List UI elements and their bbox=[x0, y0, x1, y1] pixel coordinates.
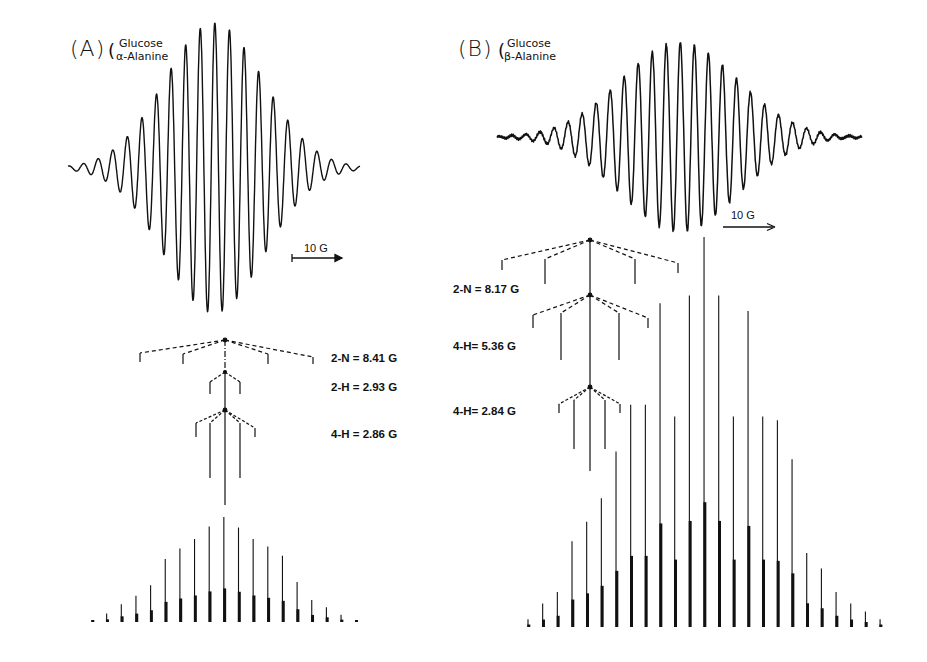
panel-b-scale-label: 10 G bbox=[731, 209, 755, 221]
panel-b-coupling-2n: 2-N = 8.17 G bbox=[453, 283, 519, 295]
panel-b-experimental-spectrum bbox=[497, 43, 862, 232]
panel-b-coupling-4h-284: 4-H= 2.84 G bbox=[453, 405, 516, 417]
panel-a-system-line2: α-Alanine bbox=[116, 51, 168, 62]
panel-a-paren: ( bbox=[108, 40, 115, 61]
epr-figure bbox=[0, 0, 927, 662]
panel-a-scale-label: 10 G bbox=[304, 242, 328, 254]
panel-a-coupling-2n: 2-N = 8.41 G bbox=[331, 352, 397, 364]
panel-a-scale-bar bbox=[292, 254, 342, 262]
panel-a-system-line1: Glucose bbox=[119, 38, 163, 49]
panel-b-scale-bar bbox=[723, 224, 775, 231]
panel-b-system-line2: β-Alanine bbox=[504, 51, 556, 62]
panel-a-stick-spectrum bbox=[92, 517, 357, 622]
panel-a-experimental-spectrum bbox=[68, 23, 360, 312]
panel-b-system-line1: Glucose bbox=[507, 38, 551, 49]
panel-a-coupling-2h: 2-H = 2.93 G bbox=[331, 381, 397, 393]
panel-b-label: (B) bbox=[458, 36, 493, 61]
panel-b-stick-spectrum bbox=[528, 237, 881, 627]
panel-a-label: (A) bbox=[70, 36, 105, 61]
panel-b-coupling-4h-536: 4-H= 5.36 G bbox=[453, 340, 516, 352]
panel-b-splitting-tree bbox=[502, 238, 678, 471]
panel-a-coupling-4h: 4-H = 2.86 G bbox=[331, 428, 397, 440]
panel-a-splitting-tree bbox=[140, 338, 313, 505]
